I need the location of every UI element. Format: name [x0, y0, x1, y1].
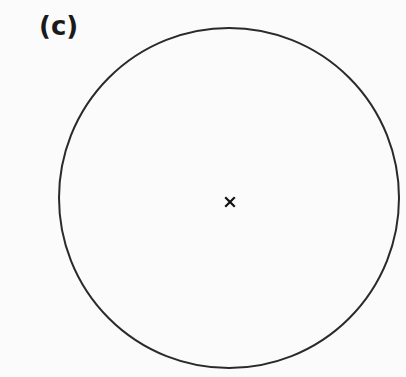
center-cross-icon [226, 198, 234, 206]
circle-diagram [0, 0, 406, 377]
circle-outline [59, 28, 399, 368]
